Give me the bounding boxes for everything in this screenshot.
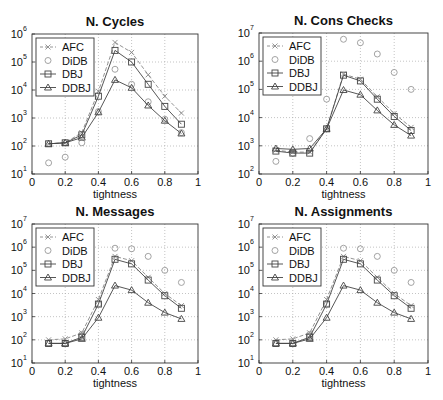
chart-title: N. Messages <box>76 204 155 219</box>
svg-text:10: 10 <box>11 84 23 96</box>
svg-text:0.6: 0.6 <box>124 176 139 188</box>
didb-marker <box>341 36 347 42</box>
didb-marker <box>112 66 118 72</box>
svg-text:7: 7 <box>23 215 27 222</box>
didb-marker <box>341 245 347 251</box>
svg-text:10: 10 <box>11 28 23 40</box>
svg-text:0.2: 0.2 <box>58 365 73 377</box>
svg-text:10: 10 <box>11 218 23 230</box>
svg-text:DBJ: DBJ <box>62 68 83 80</box>
svg-text:10: 10 <box>238 55 250 67</box>
svg-text:6: 6 <box>23 238 27 245</box>
svg-text:10: 10 <box>238 241 250 253</box>
chart-title: N. Cycles <box>86 14 145 29</box>
svg-text:DDBJ: DDBJ <box>289 81 318 93</box>
svg-text:0.8: 0.8 <box>387 365 402 377</box>
svg-text:0.6: 0.6 <box>353 176 368 188</box>
svg-text:0.2: 0.2 <box>285 176 300 188</box>
didb-marker <box>408 279 414 285</box>
svg-text:5: 5 <box>23 261 27 268</box>
svg-text:10: 10 <box>238 357 250 369</box>
svg-text:2: 2 <box>23 331 27 338</box>
afc-marker <box>146 72 151 77</box>
svg-text:10: 10 <box>11 241 23 253</box>
legend: AFCDiDBDBJDDBJ <box>36 228 94 286</box>
svg-text:0.4: 0.4 <box>91 176 106 188</box>
y-tick-labels: 101102103104105106 <box>11 25 35 180</box>
y-tick-labels: 101102103104105106107 <box>11 215 35 369</box>
didb-marker <box>273 158 279 164</box>
svg-text:0.8: 0.8 <box>157 365 172 377</box>
didb-marker <box>46 160 52 166</box>
didb-marker <box>307 136 313 142</box>
svg-text:10: 10 <box>238 288 250 300</box>
didb-marker <box>112 245 118 251</box>
svg-text:10: 10 <box>238 83 250 95</box>
svg-text:5: 5 <box>250 80 254 87</box>
svg-text:6: 6 <box>250 52 254 59</box>
svg-text:4: 4 <box>250 109 254 116</box>
svg-text:DDBJ: DDBJ <box>62 272 91 284</box>
afc-marker <box>179 111 184 116</box>
x-axis-label: tightness <box>321 188 366 200</box>
svg-text:10: 10 <box>238 27 250 39</box>
svg-text:DBJ: DBJ <box>289 67 310 79</box>
svg-text:1: 1 <box>425 365 431 377</box>
chart-n-cons-checks: N. Cons Checks00.20.40.60.81102103104105… <box>222 0 443 200</box>
svg-text:10: 10 <box>238 112 250 124</box>
afc-marker <box>113 40 118 45</box>
svg-text:AFC: AFC <box>62 231 84 243</box>
svg-text:2: 2 <box>250 165 254 172</box>
x-axis-label: tightness <box>321 377 366 389</box>
svg-text:10: 10 <box>11 112 23 124</box>
series-ddbj <box>272 282 414 346</box>
svg-text:0.2: 0.2 <box>58 176 73 188</box>
afc-marker <box>129 50 134 55</box>
svg-text:DiDB: DiDB <box>289 245 315 257</box>
svg-text:DDBJ: DDBJ <box>62 82 91 94</box>
svg-text:10: 10 <box>11 357 23 369</box>
ddbj-marker <box>340 282 347 288</box>
svg-text:10: 10 <box>238 218 250 230</box>
svg-text:10: 10 <box>238 168 250 180</box>
didb-marker <box>374 51 380 57</box>
svg-text:0: 0 <box>29 176 35 188</box>
svg-text:4: 4 <box>250 285 254 292</box>
svg-text:10: 10 <box>11 264 23 276</box>
x-tick-labels: 00.20.40.60.81 <box>29 360 201 377</box>
svg-text:0: 0 <box>29 365 35 377</box>
svg-text:10: 10 <box>238 264 250 276</box>
svg-text:0: 0 <box>256 176 262 188</box>
didb-marker <box>178 279 184 285</box>
svg-text:10: 10 <box>11 334 23 346</box>
y-tick-labels: 101102103104105106107 <box>238 215 262 369</box>
svg-text:10: 10 <box>238 140 250 152</box>
chart-title: N. Assignments <box>295 204 393 219</box>
chart-n-messages: N. Messages00.20.40.60.81101102103104105… <box>0 200 222 400</box>
svg-text:1: 1 <box>425 176 431 188</box>
svg-text:3: 3 <box>23 109 27 116</box>
legend: AFCDiDBDBJDDBJ <box>263 37 321 95</box>
chart-n-assignments: N. Assignments00.20.40.60.81101102103104… <box>222 200 443 400</box>
svg-text:10: 10 <box>11 168 23 180</box>
svg-text:10: 10 <box>11 288 23 300</box>
svg-text:3: 3 <box>250 308 254 315</box>
ddbj-marker <box>112 282 119 288</box>
svg-text:0.4: 0.4 <box>319 365 334 377</box>
y-tick-labels: 102103104105106107 <box>238 24 262 180</box>
svg-text:5: 5 <box>23 53 27 60</box>
svg-text:0.4: 0.4 <box>319 176 334 188</box>
svg-text:0.8: 0.8 <box>157 176 172 188</box>
svg-text:0.6: 0.6 <box>353 365 368 377</box>
svg-text:DiDB: DiDB <box>62 55 88 67</box>
svg-text:AFC: AFC <box>289 40 311 52</box>
svg-text:10: 10 <box>11 56 23 68</box>
svg-text:AFC: AFC <box>62 41 84 53</box>
chart-n-cycles: N. Cycles00.20.40.60.8110110210310410510… <box>0 0 222 200</box>
svg-text:1: 1 <box>23 354 27 361</box>
svg-text:10: 10 <box>11 311 23 323</box>
svg-text:4: 4 <box>23 285 27 292</box>
svg-text:7: 7 <box>250 24 254 31</box>
x-axis-label: tightness <box>93 188 138 200</box>
didb-marker <box>79 140 85 146</box>
